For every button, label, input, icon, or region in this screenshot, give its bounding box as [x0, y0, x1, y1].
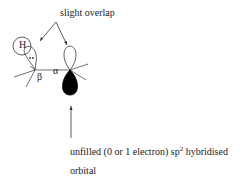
p-orbital-upper-lobe: [64, 46, 76, 70]
slight-overlap-label: slight overlap: [60, 8, 115, 18]
caption-line-2: orbital: [70, 166, 96, 176]
overlap-arrows: [40, 22, 67, 45]
caption-line-1: unfilled (0 or 1 electron) sp2 hybridise…: [70, 146, 228, 157]
h-atom-label: H: [19, 40, 26, 50]
alpha-label: α: [53, 66, 58, 76]
beta-label: β: [37, 72, 42, 82]
p-orbital-lower-lobe: [63, 70, 78, 95]
